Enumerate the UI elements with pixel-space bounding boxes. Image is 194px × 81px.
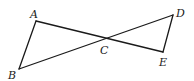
label-a: A <box>29 8 38 21</box>
label-e: E <box>158 56 167 69</box>
label-b: B <box>7 69 16 81</box>
geometry-figure: A B C D E <box>0 0 194 81</box>
label-d: D <box>175 7 185 20</box>
segment-de <box>163 15 173 52</box>
label-c: C <box>100 44 109 57</box>
segment-ab <box>19 21 36 69</box>
